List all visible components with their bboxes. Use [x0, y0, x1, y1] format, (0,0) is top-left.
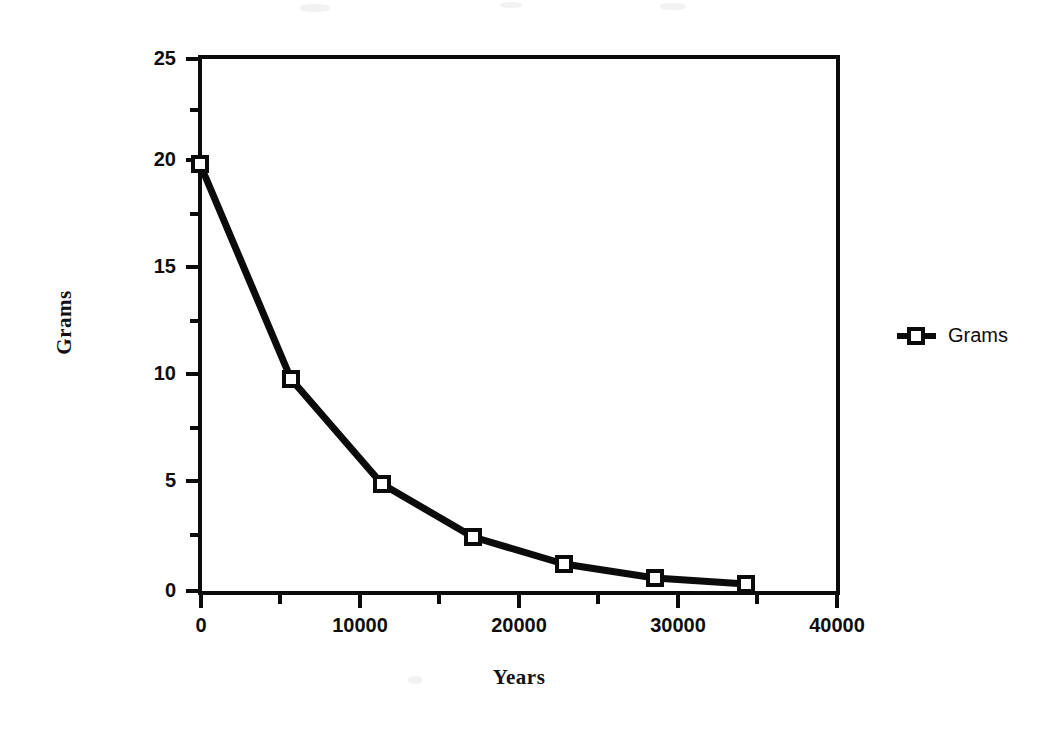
x-axis-major-ticks [201, 593, 837, 608]
y-axis-major-ticks [186, 59, 200, 591]
data-point-marker [739, 577, 753, 591]
x-tick-label: 10000 [300, 614, 420, 637]
plot-frame [200, 57, 838, 593]
chart-legend: Grams [948, 324, 1008, 347]
y-tick-label: 25 [140, 47, 176, 70]
data-point-marker [648, 571, 662, 585]
y-tick-label: 10 [140, 362, 176, 385]
plot-border [200, 57, 838, 593]
x-tick-label: 0 [161, 614, 241, 637]
y-tick-label: 20 [140, 148, 176, 171]
data-point-marker [193, 157, 207, 171]
y-tick-label: 15 [140, 255, 176, 278]
legend-symbol-grams [897, 329, 936, 343]
data-point-marker [466, 530, 480, 544]
series-line [200, 164, 746, 584]
y-tick-label: 0 [140, 579, 176, 602]
x-axis-title: Years [459, 665, 579, 690]
x-tick-label: 20000 [459, 614, 579, 637]
data-point-marker [375, 477, 389, 491]
x-tick-label: 40000 [777, 614, 897, 637]
chart-figure: 25 20 15 10 5 0 0 10000 20000 30000 4000… [0, 0, 1048, 729]
y-tick-label: 5 [140, 469, 176, 492]
series-grams [193, 157, 753, 591]
data-point-marker [284, 372, 298, 386]
y-axis-title: Grams [52, 273, 77, 373]
series-markers [193, 157, 753, 591]
x-tick-label: 30000 [618, 614, 738, 637]
data-point-marker [557, 557, 571, 571]
legend-item-label: Grams [948, 324, 1008, 347]
